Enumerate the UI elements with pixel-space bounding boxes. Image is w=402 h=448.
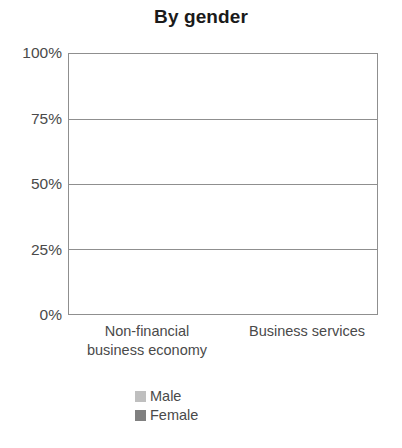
legend-swatch-male-icon bbox=[135, 391, 146, 402]
gridline-25 bbox=[69, 249, 377, 250]
y-tick-label-75: 75% bbox=[0, 110, 62, 128]
legend-item-male[interactable]: Male bbox=[135, 388, 267, 404]
chart-title: By gender bbox=[0, 6, 402, 28]
legend-label-female: Female bbox=[150, 407, 198, 423]
x-category-label-non-financial-business-economy: Non-financial business economy bbox=[62, 322, 232, 360]
gridline-50 bbox=[69, 184, 377, 185]
y-tick-label-25: 25% bbox=[0, 241, 62, 259]
y-axis: 100% 75% 50% 25% 0% bbox=[0, 53, 62, 315]
legend-label-male: Male bbox=[150, 388, 181, 404]
legend-swatch-female-icon bbox=[135, 410, 146, 421]
y-tick-label-100: 100% bbox=[0, 44, 62, 62]
plot-area bbox=[68, 53, 378, 315]
y-tick-label-0: 0% bbox=[0, 306, 62, 324]
gridline-75 bbox=[69, 119, 377, 120]
y-tick-label-50: 50% bbox=[0, 175, 62, 193]
chart-legend: Male Female bbox=[0, 388, 402, 426]
legend-item-female[interactable]: Female bbox=[135, 407, 267, 423]
x-category-label-business-services: Business services bbox=[232, 322, 382, 341]
